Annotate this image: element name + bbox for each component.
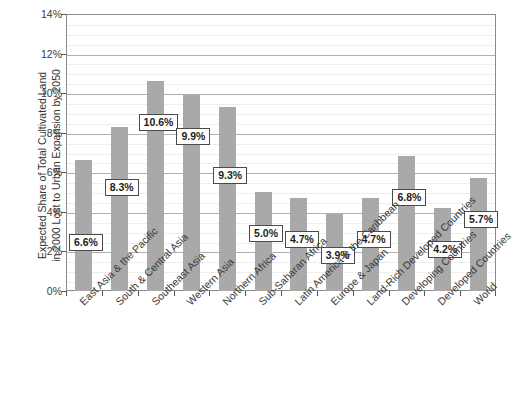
- x-axis-category-label: World: [471, 280, 499, 308]
